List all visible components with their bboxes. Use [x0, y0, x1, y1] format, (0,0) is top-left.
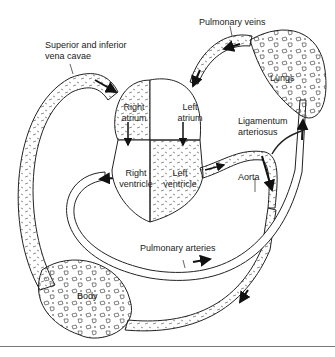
- vena-cavae-label: Superior and inferior vena cavae: [45, 40, 127, 62]
- left-atrium-label-line2: atrium: [172, 113, 208, 124]
- ligamentum-arteriosus-label: Ligamentum arteriosus: [238, 116, 288, 138]
- ligamentum-label-line2: arteriosus: [238, 127, 288, 138]
- right-atrium-label: Right atrium: [116, 102, 152, 124]
- pulmonary-arteries-arrow-icon: [193, 259, 210, 262]
- ligamentum-label-line1: Ligamentum: [238, 116, 288, 127]
- right-ventricle-label-line2: ventricle: [114, 179, 158, 190]
- left-ventricle-label-line1: Left: [158, 168, 202, 179]
- vena-cavae-label-line1: Superior and inferior: [45, 40, 127, 51]
- vena-cavae-label-line2: vena cavae: [45, 51, 127, 62]
- right-ventricle-label: Right ventricle: [114, 168, 158, 190]
- pulmonary-arteries-label: Pulmonary arteries: [140, 243, 216, 254]
- circulation-diagram: Superior and inferior vena cavae Pulmona…: [0, 0, 335, 357]
- pulmonary-veins-label: Pulmonary veins: [199, 17, 266, 28]
- right-atrium-label-line1: Right: [116, 102, 152, 113]
- left-ventricle-label: Left ventricle: [158, 168, 202, 190]
- bottom-rule-divider: [0, 346, 335, 347]
- aorta-label: Aorta: [238, 172, 260, 183]
- lungs-label: Lungs: [270, 73, 295, 84]
- right-atrium-label-line2: atrium: [116, 113, 152, 124]
- right-ventricle-label-line1: Right: [114, 168, 158, 179]
- left-ventricle-label-line2: ventricle: [158, 179, 202, 190]
- body-label: Body: [77, 291, 98, 302]
- left-atrium-label: Left atrium: [172, 102, 208, 124]
- left-atrium-label-line1: Left: [172, 102, 208, 113]
- pulmonary-veins-vessel: [190, 35, 252, 84]
